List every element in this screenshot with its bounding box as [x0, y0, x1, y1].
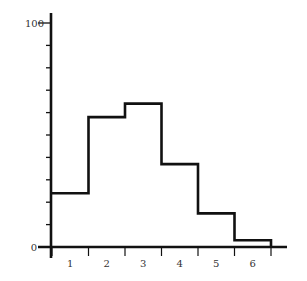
histogram-step-line	[52, 104, 271, 247]
x-tick-label: 1	[67, 258, 73, 269]
x-tick-label: 2	[104, 258, 110, 269]
y-tick-label-100: 100	[25, 18, 44, 29]
x-axis	[38, 247, 287, 256]
y-axis	[38, 13, 51, 258]
x-tick-labels: 123456	[67, 258, 256, 269]
x-tick-label: 5	[213, 258, 219, 269]
x-tick-label: 3	[140, 258, 146, 269]
y-tick-label-0: 0	[31, 242, 37, 253]
x-tick-label: 6	[250, 258, 256, 269]
histogram-chart: 100 0 123456	[0, 0, 307, 281]
x-tick-label: 4	[177, 258, 183, 269]
